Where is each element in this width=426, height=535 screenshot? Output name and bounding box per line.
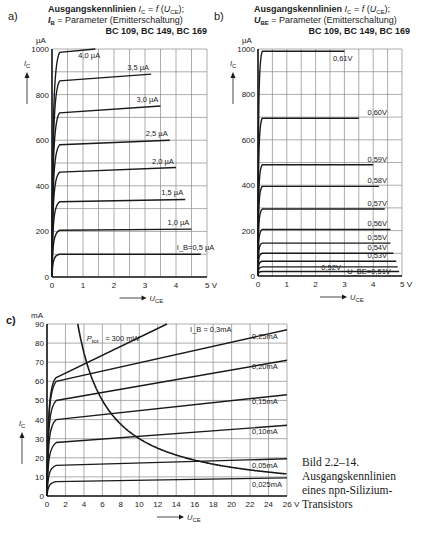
figure-caption: Bild 2.2–14. Ausgangskennlinien eines np… <box>302 455 396 511</box>
y-unit: µA <box>36 36 47 45</box>
curve-label: 0,20mA <box>252 362 278 371</box>
chart-title: Ausgangskennlinien IC = f (UCE); <box>254 4 390 15</box>
x-tick-label: 16 <box>190 500 199 509</box>
x-tick-label: 24 <box>264 500 273 509</box>
curve-label: 0,15mA <box>252 397 278 406</box>
curve-ib <box>52 229 192 277</box>
caption-line-3: eines npn-Silizium- <box>302 483 396 497</box>
x-tick-label: 2 <box>63 500 68 509</box>
x-tick-label: 4 <box>174 281 179 290</box>
x-tick-label: 20 <box>227 500 236 509</box>
x-tick-label: 4 <box>371 280 376 289</box>
curve-label: I_B=0,5 µA <box>177 243 214 252</box>
x-tick-label: 0 <box>45 500 50 509</box>
y-tick-label: 600 <box>242 136 256 145</box>
y-arrowhead-icon <box>231 72 236 78</box>
y-tick-label: 40 <box>35 416 44 425</box>
curve-label: 0,54V <box>367 243 387 252</box>
x-arrowhead-icon <box>142 296 147 301</box>
y-tick-label: 400 <box>36 182 50 191</box>
y-tick-label: 10 <box>35 473 44 482</box>
x-tick-label: 1 <box>81 281 86 290</box>
curve-ube <box>258 186 379 276</box>
y-tick-label: 90 <box>35 320 44 329</box>
curve-label: 2,0 µA <box>152 157 174 166</box>
curve-label: 0,59V <box>367 155 387 164</box>
y-tick-label: 70 <box>35 358 44 367</box>
y-arrowhead-icon <box>25 72 30 78</box>
y-tick-label: 800 <box>242 90 256 99</box>
x-tick-label: 26 V <box>283 500 300 509</box>
caption-line-4: Transistors <box>302 497 396 511</box>
y-tick-label: 800 <box>36 91 50 100</box>
x-tick-label: 6 <box>100 500 105 509</box>
curve-label: 0,56V <box>367 219 387 228</box>
y-tick-label: 1000 <box>237 45 255 54</box>
curve-label: 1,5 µA <box>161 188 183 197</box>
y-tick-label: 400 <box>242 181 256 190</box>
x-tick-label: 2 <box>112 281 117 290</box>
curve-label: 4,0 µA <box>78 51 100 60</box>
x-arrowhead-icon <box>179 515 184 520</box>
curve-ib <box>52 199 185 277</box>
chart-a: a)Ausgangskennlinien IC = f (UCE);IB = P… <box>8 4 218 304</box>
y-tick-label: 20 <box>35 454 44 463</box>
curve-ib <box>47 330 287 496</box>
curve-label: 0,52V <box>321 263 341 272</box>
chart-c: c)02468101214161820222426 V0102030405060… <box>6 311 300 523</box>
curve-label: I_B = 0,3mA <box>190 325 231 334</box>
curves: U_BE=0,51V0,52V0,53V0,54V0,55V0,56V0,57V… <box>258 51 399 276</box>
x-tick-label: 5 V <box>400 280 413 289</box>
device-list: BC 109, BC 149, BC 169 <box>105 26 207 36</box>
chart-subtitle: UBE = Parameter (Emitterschaltung) <box>254 15 397 26</box>
curves: 0,025mA0,05mA0,10mA0,15mA0,20mA0,25mAI_B… <box>47 324 287 496</box>
curve-label: 0,58V <box>367 176 387 185</box>
hyperbola-label: Ptot <box>87 334 99 344</box>
device-list: BC 109, BC 149, BC 169 <box>308 26 410 36</box>
panel-label: c) <box>6 314 16 326</box>
chart-subtitle: IB = Parameter (Emitterschaltung) <box>48 15 183 26</box>
x-tick-label: 0 <box>50 281 55 290</box>
y-tick-label: 30 <box>35 435 44 444</box>
y-tick-label: 0 <box>45 273 50 282</box>
curve-label: 0,53V <box>367 251 387 260</box>
x-tick-label: 2 <box>313 280 318 289</box>
x-tick-label: 4 <box>82 500 87 509</box>
x-axis-label: UCE <box>350 293 364 303</box>
x-tick-label: 3 <box>342 280 347 289</box>
chart-b: b)Ausgangskennlinien IC = f (UCE);UBE = … <box>214 4 413 303</box>
curve-ib <box>52 254 201 277</box>
curve-label: U_BE=0,51V <box>347 267 391 276</box>
curve-label: 0,25mA <box>252 332 278 341</box>
curve-ib <box>52 74 151 277</box>
y-axis-label: IC <box>24 59 31 69</box>
x-tick-label: 5 V <box>205 281 218 290</box>
y-arrowhead-icon <box>20 432 25 438</box>
curve-label: 0,10mA <box>252 427 278 436</box>
x-tick-label: 1 <box>285 280 290 289</box>
panel-label: b) <box>214 10 224 22</box>
curve-label: 0,61V <box>333 54 353 63</box>
x-axis-label: UCE <box>150 294 164 304</box>
caption-line-2: Ausgangskennlinien <box>302 469 396 483</box>
x-tick-label: 12 <box>153 500 162 509</box>
y-tick-label: 600 <box>36 136 50 145</box>
curve-label: 0,025mA <box>252 480 282 489</box>
y-tick-label: 60 <box>35 377 44 386</box>
curve-label: 0,60V <box>367 108 387 117</box>
y-tick-label: 0 <box>40 492 45 501</box>
y-tick-label: 1000 <box>31 45 49 54</box>
y-unit: mA <box>31 311 44 320</box>
x-tick-label: 3 <box>143 281 148 290</box>
x-tick-label: 18 <box>209 500 218 509</box>
curve-label: 1,0 µA <box>168 218 190 227</box>
y-unit: µA <box>242 36 253 45</box>
chart-title: Ausgangskennlinien IC = f (UCE); <box>48 4 184 15</box>
y-tick-label: 200 <box>36 227 50 236</box>
y-tick-label: 50 <box>35 396 44 405</box>
y-tick-label: 80 <box>35 339 44 348</box>
y-tick-label: 200 <box>242 227 256 236</box>
x-axis-label: UCE <box>187 513 201 523</box>
x-tick-label: 10 <box>135 500 144 509</box>
curve-ib <box>52 106 161 277</box>
